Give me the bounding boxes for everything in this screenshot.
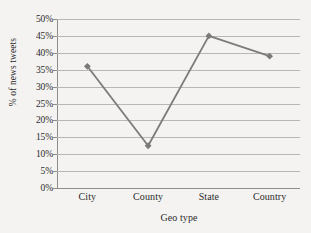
y-axis-tick-label: 45% (5, 31, 53, 41)
y-axis-tick-label: 35% (5, 65, 53, 75)
data-point-marker (205, 33, 212, 40)
plot-area (57, 19, 300, 188)
line-chart: % of news tweets 0%5%10%15%20%25%30%35%4… (0, 0, 311, 233)
y-axis-tick-label: 30% (5, 82, 53, 92)
x-axis-tick-label: Country (230, 191, 310, 202)
y-axis-tick-label: 15% (5, 132, 53, 142)
y-axis-tick-label: 0% (5, 183, 53, 193)
y-axis-tick-label: 40% (5, 48, 53, 58)
y-axis-tick-label: 5% (5, 166, 53, 176)
x-axis-tick-labels: CityCountyStateCountry (57, 191, 300, 207)
series-line (87, 36, 269, 146)
y-axis-tick-label: 50% (5, 14, 53, 24)
y-axis-tick-label: 10% (5, 149, 53, 159)
data-point-marker (266, 53, 273, 60)
data-series (57, 19, 300, 188)
x-axis-title: Geo type (57, 212, 301, 223)
gridline (57, 188, 300, 189)
y-axis-tick-label: 20% (5, 115, 53, 125)
y-axis-tick-labels: 0%5%10%15%20%25%30%35%40%45%50% (0, 19, 53, 188)
y-axis-tick-label: 25% (5, 99, 53, 109)
